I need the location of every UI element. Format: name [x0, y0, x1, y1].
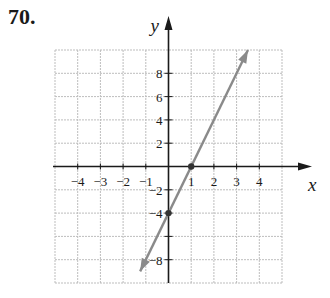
x-tick-label: 2 [211, 174, 218, 189]
y-axis-label: y [149, 15, 160, 36]
line-arrow-icon [238, 50, 248, 64]
y-tick-label: 4 [156, 113, 163, 128]
x-tick-label: −4 [71, 174, 85, 189]
x-tick-label: 4 [256, 174, 263, 189]
plotted-point [188, 163, 194, 169]
x-axis-label: x [307, 174, 317, 195]
x-axis-arrow-icon [298, 163, 312, 171]
plotted-line [140, 50, 248, 271]
x-tick-label: −3 [93, 174, 107, 189]
x-tick-label: 1 [188, 174, 195, 189]
line-y-equals-4x-minus-4 [140, 50, 248, 271]
y-tick-label: −8 [149, 253, 163, 268]
x-tick-label: 3 [233, 174, 240, 189]
y-tick-label: 2 [156, 136, 163, 151]
plotted-point [165, 210, 171, 216]
y-tick-label: −2 [149, 183, 163, 198]
y-tick-label: −4 [149, 206, 163, 221]
y-tick-label: 6 [156, 90, 163, 105]
coordinate-graph: xy−4−3−2−11234−8−4−22468 [0, 0, 330, 298]
y-axis-arrow-icon [165, 16, 173, 30]
x-tick-label: −2 [116, 174, 130, 189]
axes [53, 16, 312, 283]
tick-labels: xy−4−3−2−11234−8−4−22468 [71, 15, 317, 268]
y-tick-label: 8 [156, 66, 163, 81]
